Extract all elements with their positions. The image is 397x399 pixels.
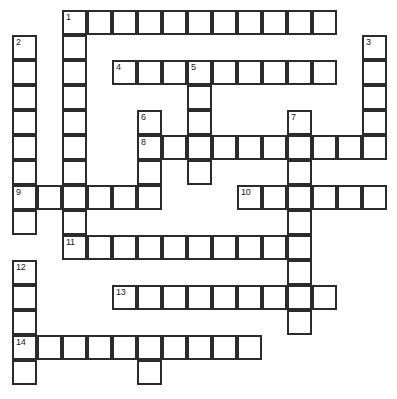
crossword-cell[interactable] (287, 185, 312, 210)
crossword-cell[interactable] (312, 60, 337, 85)
crossword-cell[interactable] (12, 310, 37, 335)
crossword-cell[interactable] (362, 85, 387, 110)
crossword-cell[interactable] (312, 185, 337, 210)
crossword-cell[interactable] (12, 360, 37, 385)
crossword-cell[interactable] (312, 135, 337, 160)
crossword-cell[interactable] (237, 10, 262, 35)
crossword-cell[interactable] (62, 110, 87, 135)
crossword-cell[interactable] (337, 185, 362, 210)
crossword-cell[interactable] (87, 10, 112, 35)
crossword-cell[interactable] (212, 285, 237, 310)
crossword-cell[interactable] (12, 210, 37, 235)
crossword-cell[interactable] (162, 235, 187, 260)
crossword-cell[interactable] (262, 10, 287, 35)
crossword-cell[interactable] (262, 185, 287, 210)
crossword-cell[interactable] (212, 335, 237, 360)
crossword-cell[interactable] (187, 285, 212, 310)
crossword-cell[interactable] (12, 160, 37, 185)
crossword-cell[interactable] (137, 360, 162, 385)
crossword-cell[interactable] (237, 335, 262, 360)
crossword-cell[interactable] (187, 85, 212, 110)
crossword-cell[interactable] (262, 235, 287, 260)
crossword-cell[interactable] (162, 60, 187, 85)
crossword-cell-numbered[interactable]: 6 (137, 110, 162, 135)
crossword-cell[interactable] (287, 210, 312, 235)
crossword-cell[interactable] (237, 60, 262, 85)
crossword-cell[interactable] (112, 185, 137, 210)
crossword-cell[interactable] (12, 285, 37, 310)
crossword-cell[interactable] (137, 10, 162, 35)
crossword-cell[interactable] (62, 185, 87, 210)
crossword-cell[interactable] (162, 135, 187, 160)
crossword-cell-numbered[interactable]: 8 (137, 135, 162, 160)
crossword-cell[interactable] (362, 135, 387, 160)
crossword-cell[interactable] (287, 260, 312, 285)
crossword-cell[interactable] (62, 335, 87, 360)
crossword-cell[interactable] (87, 335, 112, 360)
crossword-cell-numbered[interactable]: 11 (62, 235, 87, 260)
crossword-cell[interactable] (12, 135, 37, 160)
crossword-cell[interactable] (262, 135, 287, 160)
crossword-cell[interactable] (87, 235, 112, 260)
crossword-cell[interactable] (162, 10, 187, 35)
crossword-cell[interactable] (287, 10, 312, 35)
crossword-cell[interactable] (287, 135, 312, 160)
crossword-cell[interactable] (212, 135, 237, 160)
crossword-cell[interactable] (112, 10, 137, 35)
crossword-cell[interactable] (187, 110, 212, 135)
crossword-cell[interactable] (337, 135, 362, 160)
crossword-cell-numbered[interactable]: 13 (112, 285, 137, 310)
crossword-cell[interactable] (137, 335, 162, 360)
crossword-cell[interactable] (137, 60, 162, 85)
crossword-cell[interactable] (12, 110, 37, 135)
crossword-cell[interactable] (62, 35, 87, 60)
crossword-cell[interactable] (187, 335, 212, 360)
crossword-cell-numbered[interactable]: 12 (12, 260, 37, 285)
crossword-cell[interactable] (362, 185, 387, 210)
crossword-cell[interactable] (187, 235, 212, 260)
crossword-cell[interactable] (87, 185, 112, 210)
crossword-cell[interactable] (137, 160, 162, 185)
crossword-cell-numbered[interactable]: 2 (12, 35, 37, 60)
crossword-cell[interactable] (312, 10, 337, 35)
crossword-cell[interactable] (112, 235, 137, 260)
crossword-cell-numbered[interactable]: 4 (112, 60, 137, 85)
crossword-cell[interactable] (287, 285, 312, 310)
crossword-cell[interactable] (212, 10, 237, 35)
crossword-cell[interactable] (262, 285, 287, 310)
crossword-cell[interactable] (62, 60, 87, 85)
crossword-cell-numbered[interactable]: 10 (237, 185, 262, 210)
crossword-cell[interactable] (12, 60, 37, 85)
crossword-cell[interactable] (187, 10, 212, 35)
crossword-cell[interactable] (237, 135, 262, 160)
crossword-cell[interactable] (212, 60, 237, 85)
crossword-cell[interactable] (187, 160, 212, 185)
crossword-cell[interactable] (37, 185, 62, 210)
crossword-cell[interactable] (12, 85, 37, 110)
crossword-cell[interactable] (37, 335, 62, 360)
crossword-cell[interactable] (237, 285, 262, 310)
crossword-cell-numbered[interactable]: 1 (62, 10, 87, 35)
crossword-cell-numbered[interactable]: 5 (187, 60, 212, 85)
crossword-cell[interactable] (287, 310, 312, 335)
crossword-cell[interactable] (62, 210, 87, 235)
crossword-cell[interactable] (137, 185, 162, 210)
crossword-cell[interactable] (237, 235, 262, 260)
crossword-cell[interactable] (137, 235, 162, 260)
crossword-cell[interactable] (287, 60, 312, 85)
crossword-cell[interactable] (362, 110, 387, 135)
crossword-cell[interactable] (137, 285, 162, 310)
crossword-cell-numbered[interactable]: 3 (362, 35, 387, 60)
crossword-cell[interactable] (162, 335, 187, 360)
crossword-cell[interactable] (162, 285, 187, 310)
crossword-cell[interactable] (287, 160, 312, 185)
crossword-cell-numbered[interactable]: 9 (12, 185, 37, 210)
crossword-cell[interactable] (362, 60, 387, 85)
crossword-cell[interactable] (212, 235, 237, 260)
crossword-cell[interactable] (187, 135, 212, 160)
crossword-cell[interactable] (112, 335, 137, 360)
crossword-cell[interactable] (312, 285, 337, 310)
crossword-cell[interactable] (262, 60, 287, 85)
crossword-cell[interactable] (62, 160, 87, 185)
crossword-cell-numbered[interactable]: 14 (12, 335, 37, 360)
